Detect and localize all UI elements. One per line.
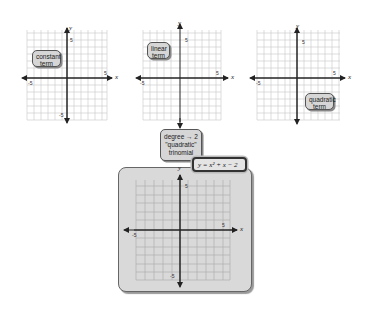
degree-line: degree → 2 [164,133,198,141]
x-axis-label: x [240,225,243,233]
quadratic-line: "quadratic" [164,141,198,149]
y-axis-label: y [178,164,181,172]
tick-label: -5 [170,273,174,279]
tick-label: 5 [222,222,225,228]
trinomial-line: trinomial [164,149,198,157]
tick-label: 5 [185,183,188,189]
tick-label: -5 [132,232,136,238]
equation-box: y = x² + x − 2 [192,157,247,172]
